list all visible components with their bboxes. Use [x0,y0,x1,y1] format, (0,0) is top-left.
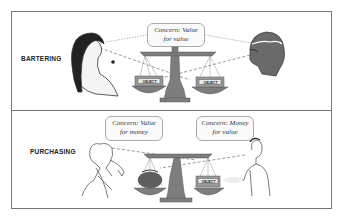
bartering-left-object-label: OBJECT [143,80,158,84]
bartering-balance-scale-icon [132,47,228,102]
purchasing-balance-scale-icon [134,154,224,202]
hand-shadow [223,177,243,183]
seller-man-icon [236,138,270,196]
money-bag-icon [138,172,162,188]
diagram-illustrations: OBJECT OBJECT OBJECT [0,0,343,221]
buyer-man-icon [82,144,124,199]
egyptian-man-icon [250,32,285,76]
egyptian-woman-icon [72,33,119,96]
bartering-right-object-label: OBJECT [204,81,219,85]
purchasing-right-object-label: OBJECT [202,180,217,184]
